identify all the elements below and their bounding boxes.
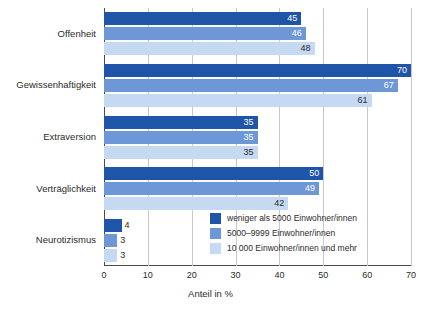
x-tick-label: 30 [221,270,251,280]
bar-value-label: 35 [238,146,254,159]
x-tick-label: 50 [308,270,338,280]
bar-value-label: 4 [125,219,141,232]
bar [104,182,319,195]
legend-item: 5000–9999 Einwohner/innen [210,226,357,240]
bar [104,79,398,92]
x-tick-label: 10 [133,270,163,280]
gridline [367,8,368,266]
legend-swatch-series-1 [210,213,221,224]
bar [104,64,411,77]
legend-swatch-series-2 [210,228,221,239]
bar [104,167,323,180]
legend: weniger als 5000 Einwohner/innen 5000–99… [210,211,357,256]
category-label: Neurotizismus [0,234,96,245]
bar [104,12,301,25]
bar [104,94,372,107]
bar-value-label: 45 [281,12,297,25]
category-label: Verträglichkeit [0,183,96,194]
bar-value-label: 67 [378,79,394,92]
bar-value-label: 35 [238,131,254,144]
bar [104,116,258,129]
bar [104,234,117,247]
bar [104,146,258,159]
bar-chart: 454648706761353535504942433 OffenheitGew… [0,0,421,309]
bar [104,131,258,144]
x-tick-label: 70 [396,270,421,280]
bar [104,27,306,40]
legend-label-series-2: 5000–9999 Einwohner/innen [227,228,335,238]
bar [104,219,122,232]
x-tick-label: 60 [352,270,382,280]
bar-value-label: 70 [391,64,407,77]
bar [104,197,288,210]
gridline [411,8,412,266]
x-tick-label: 0 [89,270,119,280]
x-tick-label: 40 [264,270,294,280]
category-label: Gewissenhaftigkeit [0,79,96,90]
x-axis-title: Anteil in % [0,288,421,299]
bar-value-label: 3 [120,234,136,247]
legend-label-series-1: weniger als 5000 Einwohner/innen [227,213,357,223]
bar [104,249,117,262]
legend-label-series-3: 10 000 Einwohner/innen und mehr [227,243,357,253]
bar-value-label: 50 [303,167,319,180]
bar-value-label: 42 [268,197,284,210]
bar-value-label: 3 [120,249,136,262]
bar [104,42,315,55]
category-label: Offenheit [0,28,96,39]
bar-value-label: 49 [299,182,315,195]
legend-item: weniger als 5000 Einwohner/innen [210,211,357,225]
bar-value-label: 61 [352,94,368,107]
x-tick-label: 20 [177,270,207,280]
legend-swatch-series-3 [210,243,221,254]
bar-value-label: 48 [295,42,311,55]
bar-value-label: 35 [238,116,254,129]
category-label: Extraversion [0,131,96,142]
bar-value-label: 46 [286,27,302,40]
legend-item: 10 000 Einwohner/innen und mehr [210,241,357,255]
